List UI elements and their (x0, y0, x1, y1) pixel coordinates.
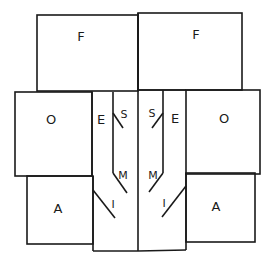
left-half: F O E S M A I (15, 15, 138, 251)
right-outer-panel (186, 90, 260, 174)
right-half: F O E S M A I (138, 13, 260, 251)
left-flap-m-label: M (118, 169, 128, 182)
right-flap-m-label: M (148, 169, 158, 182)
left-top-panel (37, 15, 138, 91)
right-top-panel-label: F (192, 27, 199, 42)
right-bottom-panel-label: A (212, 199, 221, 214)
right-bottom-panel (186, 173, 255, 242)
right-flap-i-label: I (162, 197, 165, 210)
left-edge-panel-label: E (97, 112, 105, 127)
right-top-panel (138, 13, 242, 90)
left-outer-panel (15, 92, 92, 176)
left-outer-panel-label: O (46, 112, 56, 127)
folding-diagram: F O E S M A I F O E S M A (0, 0, 275, 269)
right-edge-panel-label: E (171, 111, 179, 126)
left-top-panel-label: F (77, 29, 84, 44)
left-bottom-panel-label: A (54, 201, 63, 216)
right-outer-panel-label: O (219, 111, 229, 126)
right-bottom-strip-base (138, 250, 186, 251)
left-flap-s-label: S (121, 108, 128, 121)
right-flap-s-label: S (149, 107, 156, 120)
left-flap-i-label: I (111, 198, 114, 211)
